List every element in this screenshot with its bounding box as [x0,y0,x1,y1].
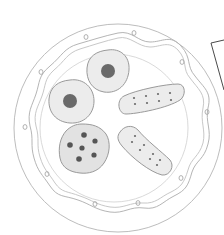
frame-corner [211,40,224,90]
plate-illustration [0,0,224,235]
chocolate-chip-cookie [59,124,109,173]
round-biscuit-center-dot-top [87,50,129,93]
round-biscuit-center-dot-left [49,80,94,123]
